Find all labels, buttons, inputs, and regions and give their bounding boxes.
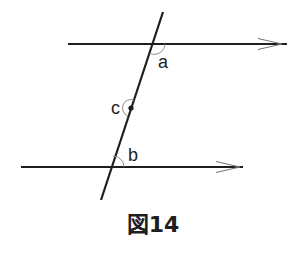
angle-label-c: c <box>111 98 120 118</box>
angle-label-a: a <box>158 52 169 72</box>
angle-label-b: b <box>128 145 138 165</box>
figure-caption: 図14 <box>0 206 306 238</box>
top-parallel-line <box>68 39 287 50</box>
point-c <box>128 105 133 110</box>
